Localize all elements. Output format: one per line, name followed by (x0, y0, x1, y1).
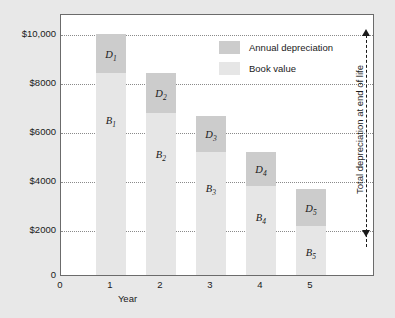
book-value-segment-3 (196, 152, 226, 275)
x-tick-2: 2 (148, 279, 172, 290)
bar-label-D2: D2 (146, 88, 176, 102)
bar-label-D1-sub: 1 (113, 54, 117, 63)
bar-label-D3-text: D (205, 129, 213, 140)
legend-swatch-book-value (219, 62, 240, 75)
annotation-dashed-line (366, 35, 367, 247)
bar-label-B4-sub: 4 (262, 217, 266, 226)
depreciation-chart: $10,000 $8000 $6000 $4000 $2000 0 D1 B1 (0, 0, 395, 318)
y-tick-8000: $8000 (30, 77, 56, 88)
y-tick-6000: $6000 (30, 126, 56, 137)
legend-label-book-value: Book value (249, 63, 296, 74)
bar-label-D3-sub: 3 (213, 134, 217, 143)
book-value-segment-4 (246, 186, 276, 275)
bar-label-B2: B2 (146, 149, 176, 163)
bar-label-D1-text: D (105, 49, 113, 60)
bar-label-D2-text: D (155, 88, 163, 99)
bar-label-B4: B4 (246, 212, 276, 226)
x-tick-3: 3 (198, 279, 222, 290)
bar-label-B5: B5 (296, 247, 326, 261)
book-value-segment-1 (96, 73, 126, 275)
bar-label-D1: D1 (96, 49, 126, 63)
bar-label-D5: D5 (296, 203, 326, 217)
bar-label-B3: B3 (196, 183, 226, 197)
bar-group-year-1: D1 B1 (96, 34, 126, 275)
bar-label-D2-sub: 2 (163, 93, 167, 102)
y-tick-4000: $4000 (30, 175, 56, 186)
y-tick-10000: $10,000 (22, 28, 56, 39)
bar-label-B5-sub: 5 (312, 252, 316, 261)
book-value-segment-2 (146, 113, 176, 275)
bar-label-D5-sub: 5 (313, 208, 317, 217)
arrow-down-icon (362, 230, 370, 237)
bar-label-B1-sub: 1 (112, 120, 116, 129)
bar-label-B3-sub: 3 (212, 188, 216, 197)
legend-label-annual-depreciation: Annual depreciation (249, 42, 333, 53)
y-tick-2000: $2000 (30, 224, 56, 235)
annotation-label: Total depreciation at end of life (354, 40, 365, 220)
bar-label-B1: B1 (96, 115, 126, 129)
bar-label-D3: D3 (196, 129, 226, 143)
bar-group-year-5: D5 B5 (296, 189, 326, 275)
plot-area: D1 B1 D2 B2 D3 B3 (60, 14, 374, 276)
x-axis-title: Year (0, 293, 325, 304)
bar-group-year-3: D3 B3 (196, 116, 226, 275)
total-depreciation-annotation: Total depreciation at end of life (337, 29, 377, 237)
x-tick-4: 4 (248, 279, 272, 290)
bar-group-year-2: D2 B2 (146, 73, 176, 275)
bar-label-D4-text: D (255, 164, 263, 175)
x-tick-0: 0 (48, 279, 72, 290)
x-tick-5: 5 (298, 279, 322, 290)
bar-label-B2-sub: 2 (162, 154, 166, 163)
y-axis-labels: $10,000 $8000 $6000 $4000 $2000 0 (0, 0, 56, 318)
legend-swatch-annual-depreciation (219, 41, 240, 54)
bar-label-D5-text: D (305, 203, 313, 214)
x-tick-1: 1 (98, 279, 122, 290)
bar-group-year-4: D4 B4 (246, 152, 276, 275)
bar-label-D4-sub: 4 (263, 169, 267, 178)
bar-label-D4: D4 (246, 164, 276, 178)
